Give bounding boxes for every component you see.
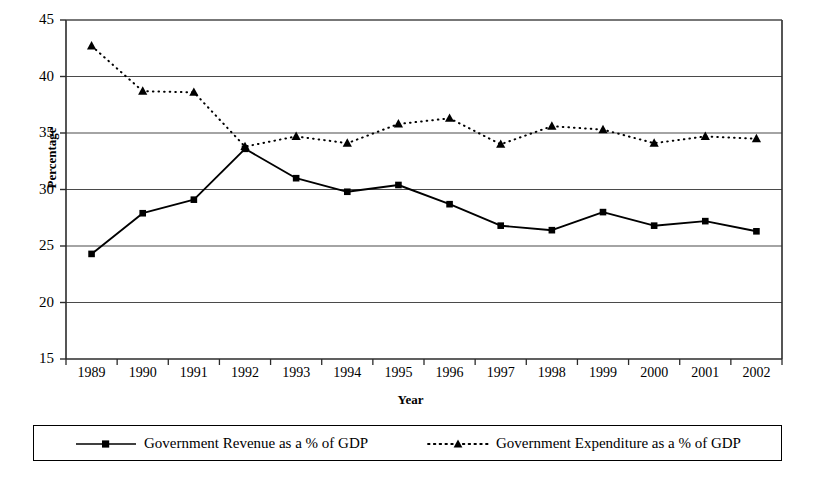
- x-tick-label: 1998: [524, 365, 580, 381]
- data-point-marker: [395, 182, 402, 189]
- data-point-marker: [189, 87, 198, 95]
- legend-label-expenditure: Government Expenditure as a % of GDP: [496, 435, 741, 454]
- dotted-line-triangle-marker-icon: [426, 437, 490, 451]
- data-point-marker: [702, 218, 709, 225]
- x-tick-label: 2001: [677, 365, 733, 381]
- legend-label-revenue: Government Revenue as a % of GDP: [144, 435, 368, 454]
- x-tick-label: 1996: [422, 365, 478, 381]
- data-point-marker: [191, 196, 198, 203]
- x-tick-label: 1994: [319, 365, 375, 381]
- solid-line-square-marker-icon: [74, 437, 138, 451]
- legend-entry-revenue: Government Revenue as a % of GDP: [74, 432, 368, 456]
- data-series-layer: [87, 41, 761, 257]
- x-tick-label: 1997: [473, 365, 529, 381]
- data-point-marker: [446, 201, 453, 208]
- data-point-marker: [394, 119, 403, 127]
- x-tick-label: 1999: [575, 365, 631, 381]
- data-point-marker: [598, 125, 607, 133]
- x-tick-label: 1995: [370, 365, 426, 381]
- data-point-marker: [344, 188, 351, 195]
- x-tick-label: 2000: [626, 365, 682, 381]
- data-point-marker: [88, 251, 95, 258]
- x-axis-title: Year: [0, 392, 821, 408]
- data-point-marker: [753, 228, 760, 235]
- gridlines: [66, 20, 782, 303]
- data-point-marker: [87, 41, 96, 49]
- data-point-marker: [138, 86, 147, 94]
- data-point-marker: [139, 210, 146, 217]
- x-tick-label: 1990: [115, 365, 171, 381]
- x-tick-label: 2002: [728, 365, 784, 381]
- data-point-marker: [600, 209, 607, 216]
- x-tick-label: 1989: [64, 365, 120, 381]
- data-point-marker: [497, 222, 504, 229]
- data-point-marker: [651, 222, 658, 229]
- data-point-marker: [343, 138, 352, 146]
- data-point-marker: [549, 227, 556, 234]
- x-tick-label: 1991: [166, 365, 222, 381]
- series-line-1: [92, 46, 757, 147]
- legend: Government Revenue as a % of GDP Governm…: [33, 425, 782, 461]
- legend-entry-expenditure: Government Expenditure as a % of GDP: [426, 432, 741, 456]
- x-tick-label: 1993: [268, 365, 324, 381]
- data-point-marker: [293, 175, 300, 182]
- data-point-marker: [445, 113, 454, 121]
- data-point-marker: [752, 134, 761, 142]
- x-tick-label: 1992: [217, 365, 273, 381]
- chart-figure: Percentage 45403530252015 19891990199119…: [0, 0, 821, 477]
- data-point-marker: [547, 121, 556, 129]
